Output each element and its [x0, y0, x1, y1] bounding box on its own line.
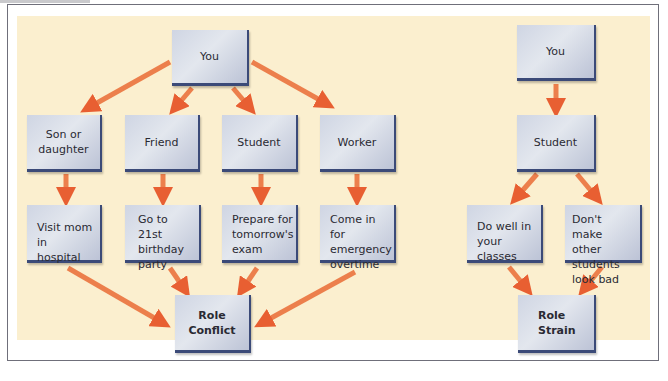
node-label: Visit mom in hospital: [37, 220, 94, 265]
node-label: Student: [237, 135, 280, 150]
node-role-student: Student: [222, 115, 298, 172]
node-expectation-exam: Prepare for tomorrow's exam: [222, 205, 298, 263]
node-role-strain: Role Strain: [518, 295, 596, 353]
node-label: You: [546, 44, 565, 59]
node-role-son-or-daughter: Son or daughter: [27, 115, 102, 172]
node-label: Don't make other students look bad: [572, 212, 634, 287]
node-role-student-right: Student: [517, 115, 596, 172]
node-expectation-dont-make-look-bad: Don't make other students look bad: [565, 205, 642, 263]
node-label: Friend: [145, 135, 179, 150]
node-label: Come in for emergency overtime: [330, 212, 392, 272]
node-label: You: [200, 49, 219, 64]
node-label: Role Conflict: [181, 308, 243, 338]
node-label: Go to 21st birthday party: [138, 212, 190, 272]
node-label: Role Strain: [538, 308, 574, 338]
node-label: Do well in your classes: [477, 219, 535, 264]
node-expectation-birthday-party: Go to 21st birthday party: [125, 205, 201, 263]
node-you-left: You: [172, 30, 249, 86]
node-label: Student: [534, 135, 577, 150]
node-role-conflict: Role Conflict: [175, 295, 251, 353]
node-label: Prepare for tomorrow's exam: [232, 212, 294, 257]
node-label: Worker: [338, 135, 377, 150]
node-expectation-overtime: Come in for emergency overtime: [320, 205, 396, 263]
header-tab-strip: [0, 0, 90, 3]
node-expectation-do-well: Do well in your classes: [467, 205, 543, 263]
node-label: Son or daughter: [36, 127, 92, 157]
node-you-right: You: [517, 25, 596, 81]
node-expectation-visit-mom: Visit mom in hospital: [27, 205, 102, 263]
node-role-friend: Friend: [125, 115, 200, 172]
node-role-worker: Worker: [320, 115, 396, 172]
